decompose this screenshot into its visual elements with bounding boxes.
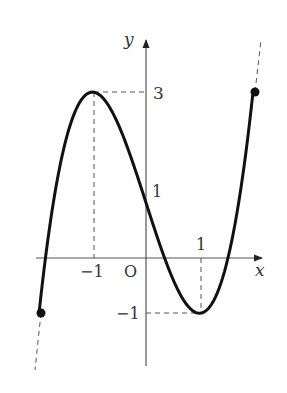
y-tick-1: 1 bbox=[152, 182, 162, 201]
x-axis-label: x bbox=[255, 260, 265, 280]
y-tick-3: 3 bbox=[153, 83, 164, 103]
right-endpoint bbox=[251, 88, 260, 97]
left-endpoint bbox=[37, 309, 46, 318]
x-tick-1: 1 bbox=[196, 235, 206, 254]
x-tick-neg1: −1 bbox=[80, 262, 104, 281]
y-tick-neg1: −1 bbox=[116, 304, 140, 323]
cubic-function-graph: y x O −1 1 3 1 −1 bbox=[0, 0, 287, 393]
y-axis-label: y bbox=[123, 29, 134, 49]
origin-label: O bbox=[124, 262, 137, 281]
